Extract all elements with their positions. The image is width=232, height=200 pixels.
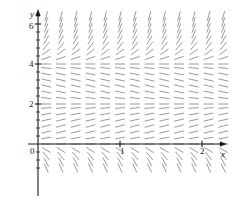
y-tick-label-6: 6 (29, 22, 34, 31)
y-tick-label-4: 4 (29, 60, 34, 69)
axes (28, 9, 227, 196)
origin-tick-label: 0 (30, 147, 35, 156)
y-tick-label-2: 2 (29, 100, 34, 109)
x-axis-label: x (221, 150, 225, 159)
x-tick-label-2: 2 (200, 147, 205, 156)
slope-field-figure: y x 0 2 4 6 1 2 (0, 0, 232, 200)
y-axis-label: y (30, 10, 34, 19)
plot-canvas (0, 0, 232, 200)
x-tick-label-1: 1 (120, 147, 125, 156)
